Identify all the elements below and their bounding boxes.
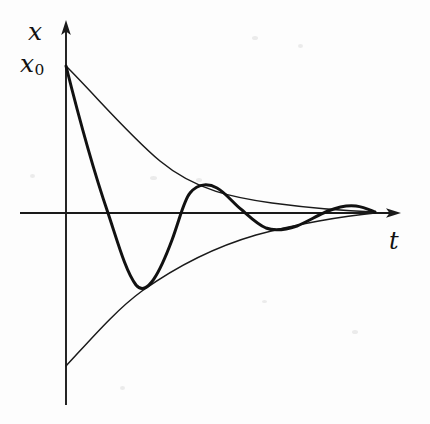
x-axis-label: t (389, 229, 399, 253)
y-axis-label: x (28, 19, 42, 44)
plot-canvas (0, 0, 430, 424)
lower-envelope-curve (66, 213, 375, 366)
damped-oscillation-figure: x t x0 (0, 0, 430, 424)
initial-amplitude-symbol: x (20, 49, 34, 78)
damped-oscillation-curve (66, 66, 375, 288)
initial-amplitude-label: x0 (20, 51, 44, 79)
initial-amplitude-subscript: 0 (35, 61, 45, 79)
